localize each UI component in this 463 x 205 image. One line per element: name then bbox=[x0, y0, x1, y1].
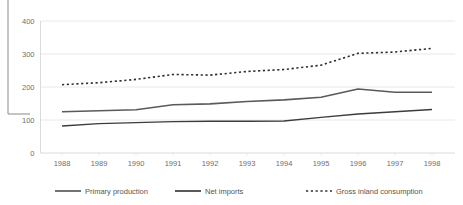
x-tick-label-1995: 1995 bbox=[313, 159, 330, 168]
y-tick-label-0: 0 bbox=[30, 149, 34, 158]
x-tick-label-1992: 1992 bbox=[202, 159, 219, 168]
series-line-primary-production bbox=[62, 89, 432, 112]
y-tick-label-300: 300 bbox=[22, 50, 35, 59]
x-tick-label-1991: 1991 bbox=[165, 159, 182, 168]
x-tick-label-1993: 1993 bbox=[239, 159, 256, 168]
x-axis-tick-labels: 1988198919901991199219931994199519961997… bbox=[54, 159, 441, 168]
x-tick-label-1990: 1990 bbox=[128, 159, 145, 168]
legend-label-gross-inland-consumption: Gross inland consumption bbox=[336, 187, 423, 196]
series-line-net-imports bbox=[62, 109, 432, 126]
y-tick-label-200: 200 bbox=[22, 83, 35, 92]
x-tick-label-1996: 1996 bbox=[350, 159, 367, 168]
chart-legend: Primary productionNet importsGross inlan… bbox=[55, 187, 423, 196]
y-tick-label-400: 400 bbox=[22, 17, 35, 26]
x-tick-label-1997: 1997 bbox=[387, 159, 404, 168]
legend-label-primary-production: Primary production bbox=[85, 187, 148, 196]
gridlines bbox=[41, 21, 456, 156]
x-tick-label-1994: 1994 bbox=[276, 159, 293, 168]
x-tick-label-1998: 1998 bbox=[424, 159, 441, 168]
x-tick-label-1988: 1988 bbox=[54, 159, 71, 168]
x-tick-label-1989: 1989 bbox=[91, 159, 108, 168]
y-tick-label-100: 100 bbox=[22, 116, 35, 125]
line-chart: 0100200300400 19881989199019911992199319… bbox=[0, 0, 463, 205]
legend-label-net-imports: Net imports bbox=[205, 187, 244, 196]
y-axis-tick-labels: 0100200300400 bbox=[22, 17, 35, 158]
